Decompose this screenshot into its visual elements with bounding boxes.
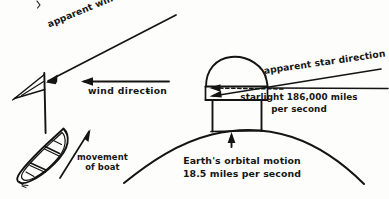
label-earth-line1: Earth's orbital motion [183, 154, 301, 167]
label-earth-orbital-motion: Earth's orbital motion 18.5 miles per se… [183, 154, 301, 181]
label-starlight-line1: starlight 186,000 miles [240, 92, 357, 104]
label-earth-line2: 18.5 miles per second [183, 167, 301, 180]
label-starlight: starlight 186,000 miles per second [240, 92, 357, 115]
label-movement-of-boat-line1: movement [77, 152, 128, 162]
label-wind-direction: wind direcŧion [88, 86, 167, 97]
label-movement-of-boat-line2: of boat [77, 162, 128, 172]
starlight-arrow [268, 88, 388, 89]
boat-mast [44, 73, 45, 133]
wind-pennant [13, 75, 45, 101]
apparent-wind-arrow [46, 15, 176, 84]
earth-motion-arrow [228, 132, 236, 147]
stray-ink-mark [37, 1, 40, 8]
observatory-dome [206, 57, 268, 87]
label-starlight-line2: per second [240, 104, 357, 116]
aberration-diagram: apparent wind direction wind direcŧion m… [0, 0, 389, 199]
label-movement-of-boat: movement of boat [77, 152, 128, 173]
